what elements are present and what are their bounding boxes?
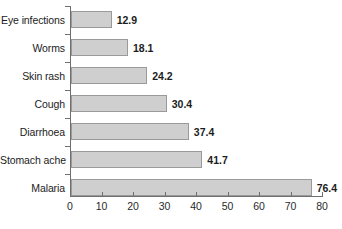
x-axis-tick bbox=[165, 192, 166, 197]
bar-value-label: 41.7 bbox=[207, 146, 227, 174]
category-label: Worms bbox=[0, 34, 65, 62]
x-axis-tick-label: 50 bbox=[216, 200, 240, 212]
bar bbox=[71, 123, 189, 140]
category-label: Skin rash bbox=[0, 62, 65, 90]
bar-row: Eye infections12.9 bbox=[0, 6, 342, 34]
x-axis-tick bbox=[228, 192, 229, 197]
bar bbox=[71, 179, 312, 196]
x-axis-tick-label: 0 bbox=[58, 200, 82, 212]
bar-row: Cough30.4 bbox=[0, 90, 342, 118]
bar-value-label: 30.4 bbox=[172, 90, 192, 118]
bar bbox=[71, 11, 112, 28]
bar-value-label: 37.4 bbox=[194, 118, 214, 146]
bar-value-label: 76.4 bbox=[317, 174, 337, 202]
x-axis-tick bbox=[102, 192, 103, 197]
category-label: Cough bbox=[0, 90, 65, 118]
bar bbox=[71, 39, 128, 56]
bar bbox=[71, 67, 147, 84]
x-axis-tick-label: 70 bbox=[279, 200, 303, 212]
bar-chart: Eye infections12.9Worms18.1Skin rash24.2… bbox=[0, 0, 342, 229]
x-axis-tick bbox=[196, 192, 197, 197]
bar bbox=[71, 151, 202, 168]
category-label: Eye infections bbox=[0, 6, 65, 34]
x-axis-tick bbox=[70, 192, 71, 197]
bar-row: Stomach ache41.7 bbox=[0, 146, 342, 174]
x-axis-tick bbox=[322, 192, 323, 197]
category-label: Malaria bbox=[0, 174, 65, 202]
bar-value-label: 24.2 bbox=[152, 62, 172, 90]
bar-row: Malaria76.4 bbox=[0, 174, 342, 202]
x-axis-tick bbox=[291, 192, 292, 197]
category-label: Stomach ache bbox=[0, 146, 65, 174]
x-axis-tick-label: 10 bbox=[90, 200, 114, 212]
x-axis-tick-label: 30 bbox=[153, 200, 177, 212]
bar bbox=[71, 95, 167, 112]
bar-row: Skin rash24.2 bbox=[0, 62, 342, 90]
bar-value-label: 12.9 bbox=[117, 6, 137, 34]
bar-row: Worms18.1 bbox=[0, 34, 342, 62]
x-axis-tick-label: 80 bbox=[310, 200, 334, 212]
bar-value-label: 18.1 bbox=[133, 34, 153, 62]
category-label: Diarrhoea bbox=[0, 118, 65, 146]
bar-row: Diarrhoea37.4 bbox=[0, 118, 342, 146]
x-axis-tick-label: 40 bbox=[184, 200, 208, 212]
x-axis-tick-label: 60 bbox=[247, 200, 271, 212]
x-axis-tick bbox=[259, 192, 260, 197]
x-axis-tick-label: 20 bbox=[121, 200, 145, 212]
x-axis-tick bbox=[133, 192, 134, 197]
